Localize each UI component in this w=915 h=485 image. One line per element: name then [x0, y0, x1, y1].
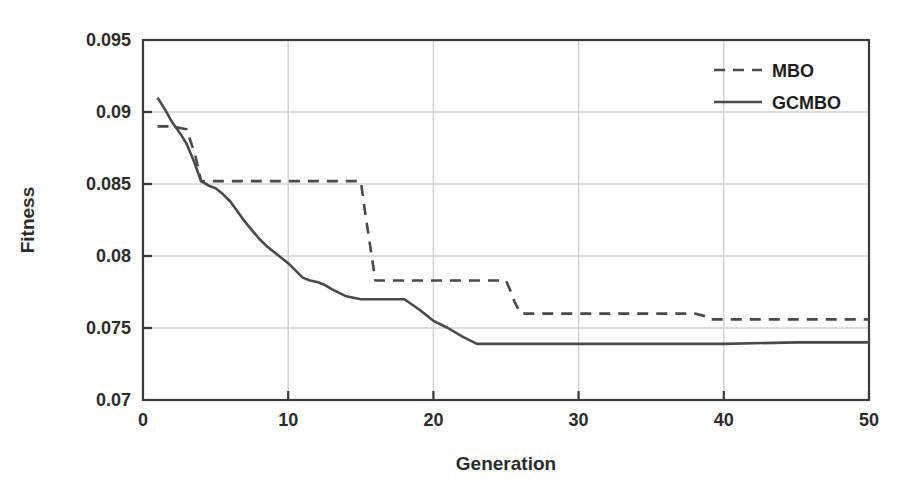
x-tick-label: 50	[859, 410, 879, 430]
x-tick-label: 0	[138, 410, 148, 430]
y-tick-label: 0.085	[86, 174, 131, 194]
legend-label-mbo: MBO	[772, 61, 814, 81]
legend-label-gcmbo: GCMBO	[772, 93, 841, 113]
series-group	[158, 98, 869, 344]
legend: MBOGCMBO	[714, 61, 841, 113]
x-tick-label: 20	[423, 410, 443, 430]
series-line-mbo	[158, 126, 869, 319]
y-tick-label: 0.09	[96, 102, 131, 122]
x-axis-label: Generation	[456, 453, 556, 474]
x-tick-label: 40	[714, 410, 734, 430]
gridlines-group	[143, 40, 869, 400]
y-tick-label: 0.07	[96, 390, 131, 410]
y-tick-label: 0.095	[86, 30, 131, 50]
x-tick-label: 10	[278, 410, 298, 430]
fitness-convergence-chart: 01020304050 0.070.0750.080.0850.090.095 …	[0, 0, 915, 485]
chart-canvas: 01020304050 0.070.0750.080.0850.090.095 …	[0, 0, 915, 485]
series-line-gcmbo	[158, 98, 869, 344]
y-tick-label: 0.075	[86, 318, 131, 338]
x-tick-label: 30	[569, 410, 589, 430]
x-tick-labels: 01020304050	[138, 410, 879, 430]
y-axis-label: Fitness	[17, 187, 38, 254]
plot-frame	[143, 40, 869, 400]
y-tick-labels: 0.070.0750.080.0850.090.095	[86, 30, 131, 410]
y-tick-label: 0.08	[96, 246, 131, 266]
